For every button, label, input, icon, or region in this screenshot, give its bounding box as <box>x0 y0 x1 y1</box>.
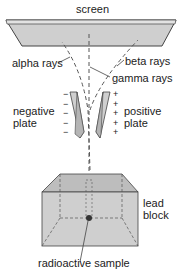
positive-charges: +++++ <box>113 90 118 138</box>
label-beta-rays: beta rays <box>125 55 170 67</box>
label-radioactive-sample: radioactive sample <box>38 257 130 269</box>
label-negative-plate: negative plate <box>13 105 55 129</box>
positive-plate <box>96 92 110 138</box>
label-alpha-rays: alpha rays <box>12 57 63 69</box>
label-gamma-rays: gamma rays <box>112 72 173 84</box>
negative-plate <box>70 92 84 138</box>
lead-block <box>42 174 138 262</box>
label-lead-block: lead block <box>143 197 169 221</box>
negative-charges: −−−−− <box>63 90 68 138</box>
label-screen: screen <box>76 3 109 15</box>
radioactive-sample-dot <box>86 215 92 221</box>
screen <box>6 20 176 46</box>
label-positive-plate: positive plate <box>124 105 161 129</box>
